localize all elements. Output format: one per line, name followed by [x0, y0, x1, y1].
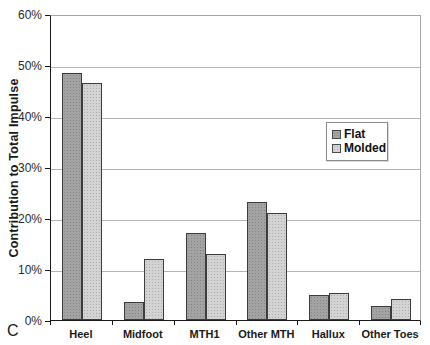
- gridline: [51, 169, 420, 170]
- legend: FlatMolded: [326, 122, 388, 161]
- x-category-label: MTH1: [174, 328, 236, 340]
- bar-flat-heel: [62, 73, 82, 320]
- bar-flat-hallux: [309, 295, 329, 321]
- y-tick-label: 60%: [2, 9, 42, 21]
- bar-molded-other-toes: [391, 299, 411, 320]
- legend-label: Flat: [344, 128, 365, 141]
- y-tick-mark: [45, 117, 50, 118]
- y-tick-mark: [45, 15, 50, 16]
- x-tick-mark: [174, 321, 175, 325]
- y-tick-label: 30%: [2, 162, 42, 174]
- x-category-label: Other MTH: [236, 328, 298, 340]
- y-tick-mark: [45, 270, 50, 271]
- x-category-label: Heel: [50, 328, 112, 340]
- x-category-label: Midfoot: [112, 328, 174, 340]
- legend-entry-flat: Flat: [332, 128, 382, 141]
- y-tick-label: 50%: [2, 60, 42, 72]
- bar-chart-figure: Contribution to Total Impulse 0%10%20%30…: [0, 0, 430, 345]
- bar-molded-heel: [82, 83, 102, 320]
- bar-flat-other-mth: [247, 202, 267, 320]
- x-tick-mark: [359, 321, 360, 325]
- x-category-label: Hallux: [297, 328, 359, 340]
- y-tick-label: 10%: [2, 264, 42, 276]
- gridline: [51, 220, 420, 221]
- x-tick-mark: [112, 321, 113, 325]
- x-category-label: Other Toes: [359, 328, 421, 340]
- legend-marker-flat-icon: [332, 130, 341, 139]
- y-tick-label: 40%: [2, 111, 42, 123]
- bar-molded-mth1: [206, 254, 226, 320]
- x-tick-mark: [420, 321, 421, 325]
- y-tick-mark: [45, 168, 50, 169]
- bar-molded-midfoot: [144, 259, 164, 320]
- bar-flat-mth1: [186, 233, 206, 320]
- y-tick-mark: [45, 219, 50, 220]
- gridline: [51, 118, 420, 119]
- gridline: [51, 67, 420, 68]
- y-tick-mark: [45, 66, 50, 67]
- bar-flat-other-toes: [371, 306, 391, 320]
- legend-label: Molded: [344, 142, 386, 155]
- bar-molded-hallux: [329, 293, 349, 320]
- x-tick-mark: [297, 321, 298, 325]
- gridline: [51, 271, 420, 272]
- x-tick-mark: [50, 321, 51, 325]
- legend-entry-molded: Molded: [332, 142, 382, 155]
- x-tick-mark: [236, 321, 237, 325]
- bar-molded-other-mth: [267, 213, 287, 320]
- y-tick-label: 20%: [2, 213, 42, 225]
- bar-flat-midfoot: [124, 302, 144, 320]
- panel-letter-label: C: [7, 322, 19, 340]
- plot-area: [50, 15, 421, 321]
- legend-marker-molded-icon: [332, 144, 341, 153]
